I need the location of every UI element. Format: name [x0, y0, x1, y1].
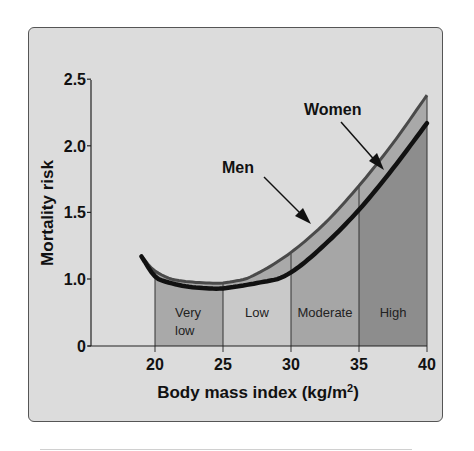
y-axis-label: Mortality risk — [38, 160, 57, 266]
y-tick-label: 2.0 — [64, 138, 86, 155]
x-tick-label: 30 — [282, 356, 300, 373]
y-tick-label: 1.0 — [64, 271, 86, 288]
region-label: Moderate — [298, 305, 353, 320]
men-annotation-label: Men — [222, 159, 254, 176]
x-tick-label: 25 — [214, 356, 232, 373]
x-tick-label: 40 — [418, 356, 436, 373]
region-label: High — [380, 305, 407, 320]
women-annotation-label: Women — [304, 101, 361, 118]
x-ticks: 2025303540 — [146, 356, 436, 373]
x-tick-label: 35 — [350, 356, 368, 373]
y-tick-label: 2.5 — [64, 71, 86, 88]
mortality-bmi-chart: 01.01.52.02.5 2025303540 VerylowLowModer… — [0, 0, 474, 451]
y-tick-label: 0 — [77, 338, 86, 355]
women-annotation-arrow — [341, 122, 384, 170]
x-axis-label: Body mass index (kg/m2) — [157, 382, 359, 402]
divider-line — [40, 449, 412, 450]
x-tick-label: 20 — [146, 356, 164, 373]
region-label: Very — [175, 305, 202, 320]
region-label: low — [175, 323, 195, 338]
y-tick-label: 1.5 — [64, 204, 86, 221]
men-annotation-arrow — [264, 177, 311, 224]
y-ticks: 01.01.52.02.5 — [64, 71, 91, 355]
region-label: Low — [245, 305, 269, 320]
